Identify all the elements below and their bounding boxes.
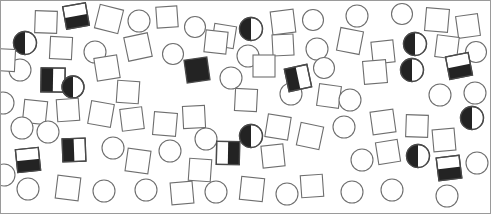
shape-body — [466, 152, 488, 174]
shape-body — [300, 174, 323, 197]
stimulus-square-half-right — [216, 140, 240, 165]
stimulus-square-empty — [182, 105, 205, 128]
shape-body — [49, 36, 72, 59]
shape-layer — [0, 0, 491, 214]
stimulus-circle-empty — [339, 89, 361, 111]
shape-body — [125, 148, 151, 174]
stimulus-square-empty — [370, 109, 396, 135]
stimulus-circle-empty — [464, 82, 486, 104]
stimulus-square-empty — [363, 60, 388, 85]
stimulus-circle-empty — [381, 179, 403, 201]
stimulus-circle-empty — [306, 38, 328, 60]
shape-body — [37, 121, 59, 143]
stimulus-circle-empty — [429, 84, 451, 106]
shape-body — [116, 80, 139, 103]
shape-body — [363, 60, 388, 85]
shape-body — [124, 33, 152, 61]
stimulus-square-half-bottom — [14, 147, 41, 173]
stimulus-circle-empty — [220, 67, 242, 89]
stimulus-square-empty — [35, 11, 58, 34]
shape-body — [195, 128, 217, 150]
stimulus-square-empty — [0, 48, 16, 71]
stimulus-circle-empty — [11, 117, 33, 139]
shape-body — [0, 48, 16, 71]
stimulus-square-empty — [188, 158, 211, 181]
shape-body — [296, 122, 323, 149]
shape-body — [261, 144, 285, 168]
shape-body — [88, 101, 115, 128]
stimulus-square-empty — [55, 175, 81, 201]
shape-body — [35, 11, 58, 34]
stimulus-square-solid — [184, 57, 210, 83]
stimulus-square-empty — [94, 55, 120, 81]
stimulus-square-empty — [270, 9, 296, 35]
stimulus-square-empty — [88, 101, 115, 128]
stimulus-square-empty — [296, 122, 323, 149]
stimulus-circle-empty — [205, 181, 227, 203]
shape-body — [272, 34, 294, 56]
stimulus-square-empty — [239, 176, 264, 201]
stimulus-square-empty — [234, 88, 257, 111]
stimulus-circle-empty — [185, 17, 206, 38]
shape-body — [265, 114, 291, 140]
shape-body — [339, 89, 361, 111]
stimulus-circle-empty — [346, 5, 368, 27]
stimulus-circle-empty — [102, 137, 124, 159]
stimulus-circle-empty — [466, 152, 488, 174]
shape-body — [182, 105, 205, 128]
shape-body — [429, 84, 451, 106]
shape-body — [11, 117, 33, 139]
stimulus-circle-empty — [351, 149, 373, 171]
stimulus-circle-empty — [303, 10, 324, 31]
shape-body — [205, 181, 227, 203]
shape-body — [351, 149, 373, 171]
stimulus-circle-empty — [195, 128, 217, 150]
shape-body — [56, 98, 79, 121]
shape-body — [370, 109, 396, 135]
stimulus-square-empty — [125, 148, 151, 174]
shape-body — [120, 107, 145, 132]
stimulus-square-empty — [120, 107, 145, 132]
stimulus-square-empty — [253, 55, 275, 77]
stimulus-circle-empty — [392, 4, 413, 25]
shape-body — [432, 128, 456, 152]
shape-body — [156, 6, 178, 28]
stimulus-circle-empty — [436, 185, 458, 207]
shape-body — [204, 30, 228, 54]
stimulus-circle-empty — [128, 10, 150, 32]
shape-body — [102, 137, 124, 159]
stimulus-square-empty — [456, 14, 481, 39]
shape-body — [220, 67, 242, 89]
shape-body — [341, 181, 363, 203]
stimulus-square-empty — [425, 8, 450, 33]
shape-body — [253, 55, 275, 77]
stimulus-circle-empty — [37, 121, 59, 143]
stimulus-square-empty — [116, 80, 139, 103]
shape-body — [436, 185, 458, 207]
stimulus-square-empty — [337, 28, 364, 55]
stimulus-square-empty — [94, 4, 123, 33]
stimulus-circle-empty — [276, 183, 298, 205]
stimulus-square-empty — [261, 144, 285, 168]
shape-body — [234, 88, 257, 111]
shape-body — [163, 44, 184, 65]
shape-body — [94, 4, 123, 33]
shape-body — [333, 116, 355, 138]
shape-body — [346, 5, 368, 27]
stimulus-square-half-bottom — [435, 155, 463, 182]
stimulus-square-empty — [153, 112, 178, 137]
stimulus-square-empty — [156, 6, 178, 28]
stimulus-circle-empty — [159, 140, 181, 162]
shape-body — [406, 115, 429, 138]
stimulus-square-empty — [406, 115, 429, 138]
shape-body — [128, 10, 150, 32]
stimulus-square-empty — [375, 139, 400, 164]
stimulus-circle-empty — [135, 179, 157, 201]
shape-body — [135, 179, 157, 201]
stimulus-circle-empty — [163, 44, 184, 65]
shape-body — [381, 179, 403, 201]
stimulus-square-empty — [432, 128, 456, 152]
shape-body — [93, 180, 115, 202]
stimulus-circle-empty — [93, 180, 115, 202]
stimulus-circle-empty — [17, 178, 39, 200]
